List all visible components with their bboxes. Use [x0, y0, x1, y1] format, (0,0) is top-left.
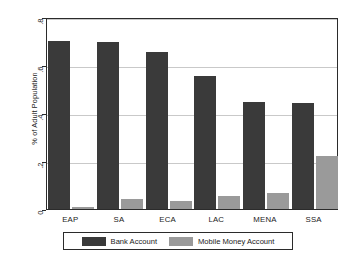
plot-area — [46, 18, 338, 210]
y-tick-label: .4 — [36, 115, 45, 121]
y-tick-label: .8 — [36, 19, 45, 25]
bar-mena-bank-account — [243, 102, 265, 209]
y-axis-tick: .8 — [0, 18, 46, 19]
legend-entry-bank-account[interactable]: Bank Account — [82, 237, 157, 246]
y-axis-tick: .4 — [0, 114, 46, 115]
bar-ssa-bank-account — [292, 103, 314, 209]
bar-eca-bank-account — [146, 52, 168, 209]
x-tick-label-ssa: SSA — [284, 215, 344, 224]
y-axis-tick: .6 — [0, 66, 46, 67]
bank-swatch — [82, 237, 106, 246]
y-axis-tick: .2 — [0, 162, 46, 163]
bar-lac-bank-account — [194, 76, 216, 209]
gridline — [47, 19, 337, 20]
bar-chart-figure: % of Adult Population 0.2.4.6.8 EAPSAECA… — [0, 0, 356, 260]
bar-sa-mobile-money-account — [121, 199, 143, 209]
mobile-money-swatch — [169, 237, 193, 246]
bar-lac-mobile-money-account — [218, 196, 240, 209]
gridline — [47, 67, 337, 68]
legend-label: Bank Account — [111, 237, 157, 246]
legend-entry-mobile-money-account[interactable]: Mobile Money Account — [169, 237, 274, 246]
bar-eca-mobile-money-account — [170, 201, 192, 209]
y-tick-label: .2 — [36, 163, 45, 169]
bar-eap-mobile-money-account — [72, 207, 94, 209]
chart-legend: Bank AccountMobile Money Account — [63, 232, 293, 250]
bar-eap-bank-account — [48, 41, 70, 209]
bar-mena-mobile-money-account — [267, 193, 289, 209]
bar-sa-bank-account — [97, 42, 119, 209]
y-axis-tick: 0 — [0, 210, 46, 211]
bar-ssa-mobile-money-account — [316, 156, 338, 209]
y-tick-label: .6 — [36, 67, 45, 73]
legend-label: Mobile Money Account — [198, 237, 274, 246]
